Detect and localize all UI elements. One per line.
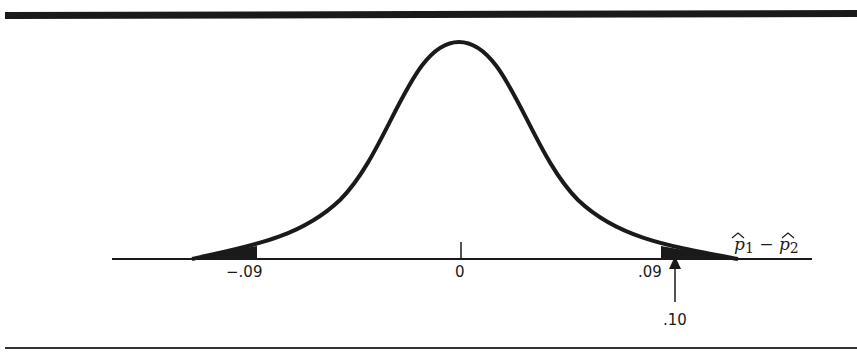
- bell-curve: [192, 42, 738, 259]
- bottom-rule: [5, 347, 857, 349]
- axis-label: p1 − p2: [732, 233, 799, 256]
- normal-curve-chart: −.09 0 .09 .10 p1 − p2: [0, 0, 857, 354]
- tick-label-zero: 0: [455, 263, 465, 281]
- tick-label-neg: −.09: [226, 263, 262, 281]
- tick-label-pos: .09: [638, 263, 662, 281]
- observed-label: .10: [663, 311, 687, 329]
